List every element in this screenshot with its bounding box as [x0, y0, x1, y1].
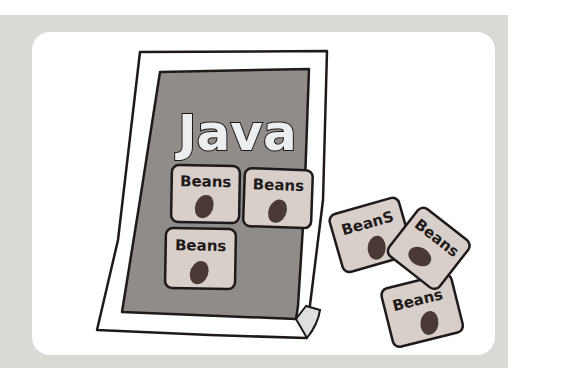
- bean-card-2: Beans: [243, 168, 313, 228]
- java-title-text: Java: [175, 104, 297, 162]
- bean-card-label: Beans: [252, 175, 304, 195]
- java-beans-illustration: Java Beans Beans Beans BeanS Beans Beans: [0, 0, 580, 389]
- bean-card-label: Beans: [175, 236, 227, 255]
- bean-card-1: Beans: [171, 165, 240, 223]
- bean-card-label: Beans: [180, 172, 232, 191]
- java-title: Java: [175, 104, 297, 162]
- bean-card-3: Beans: [165, 228, 236, 289]
- loose-bean-card-3: Beans: [380, 273, 464, 349]
